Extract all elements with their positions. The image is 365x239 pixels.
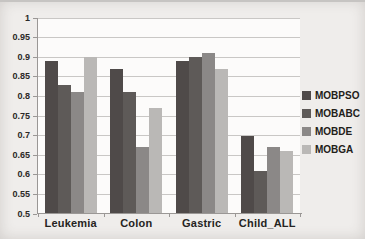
legend-label: MOBGA bbox=[315, 144, 353, 155]
gridline bbox=[38, 76, 300, 77]
x-axis-tick bbox=[235, 214, 236, 217]
y-axis-tick bbox=[33, 76, 37, 77]
y-axis-tick-label: 0.5 bbox=[0, 210, 30, 219]
x-axis-tick bbox=[104, 214, 105, 217]
y-axis-tick-label: 0.55 bbox=[0, 190, 30, 199]
plot-area bbox=[38, 18, 300, 214]
bar-mobpso-colon bbox=[110, 69, 123, 214]
y-axis-tick bbox=[33, 18, 37, 19]
y-axis-tick-label: 0.85 bbox=[0, 72, 30, 81]
x-axis-tick bbox=[300, 214, 301, 217]
y-axis bbox=[37, 18, 38, 214]
bar-mobpso-child_all bbox=[241, 136, 254, 214]
bar-mobpso-leukemia bbox=[45, 61, 58, 214]
x-axis-category-label: Leukemia bbox=[38, 217, 104, 229]
y-axis-tick bbox=[33, 37, 37, 38]
x-axis-category-label: Gastric bbox=[169, 217, 235, 229]
y-axis-tick-label: 0.65 bbox=[0, 151, 30, 160]
y-axis-tick bbox=[33, 135, 37, 136]
bar-mobga-leukemia bbox=[84, 57, 97, 214]
y-axis-tick bbox=[33, 194, 37, 195]
legend-item-mobde: MOBDE bbox=[302, 126, 360, 137]
y-axis-tick bbox=[33, 116, 37, 117]
legend-item-mobga: MOBGA bbox=[302, 144, 360, 155]
top-edge-divider bbox=[0, 0, 365, 2]
y-axis-tick-label: 0.7 bbox=[0, 131, 30, 140]
y-axis-tick bbox=[33, 57, 37, 58]
bar-chart: MOBPSOMOBABCMOBDEMOBGA 10.950.90.850.80.… bbox=[0, 0, 365, 239]
y-axis-tick-label: 1 bbox=[0, 14, 30, 23]
bar-mobpso-gastric bbox=[176, 61, 189, 214]
gridline bbox=[38, 57, 300, 58]
y-axis-tick-label: 0.8 bbox=[0, 92, 30, 101]
x-axis-tick bbox=[169, 214, 170, 217]
bar-mobabc-colon bbox=[123, 92, 136, 214]
bar-mobde-gastric bbox=[202, 53, 215, 214]
y-axis-tick bbox=[33, 96, 37, 97]
legend-swatch-icon bbox=[302, 127, 311, 136]
bar-mobabc-gastric bbox=[189, 57, 202, 214]
bar-mobabc-child_all bbox=[254, 171, 267, 214]
x-axis bbox=[38, 213, 302, 214]
bar-mobga-colon bbox=[149, 108, 162, 214]
y-axis-tick-label: 0.9 bbox=[0, 53, 30, 62]
gridline bbox=[38, 37, 300, 38]
bar-mobde-colon bbox=[136, 147, 149, 214]
x-axis-category-label: Colon bbox=[104, 217, 170, 229]
bar-mobde-leukemia bbox=[71, 92, 84, 214]
bar-mobga-gastric bbox=[215, 69, 228, 214]
legend-item-mobabc: MOBABC bbox=[302, 108, 360, 119]
y-axis-tick-label: 0.75 bbox=[0, 112, 30, 121]
legend-item-mobpso: MOBPSO bbox=[302, 90, 360, 101]
x-axis-tick bbox=[38, 214, 39, 217]
y-axis-tick bbox=[33, 155, 37, 156]
legend-label: MOBPSO bbox=[315, 90, 359, 101]
y-axis-tick-label: 0.95 bbox=[0, 33, 30, 42]
legend: MOBPSOMOBABCMOBDEMOBGA bbox=[302, 90, 360, 162]
bar-mobabc-leukemia bbox=[58, 85, 71, 214]
y-axis-tick bbox=[33, 174, 37, 175]
y-axis-tick bbox=[33, 214, 37, 215]
legend-label: MOBABC bbox=[315, 108, 360, 119]
legend-swatch-icon bbox=[302, 91, 311, 100]
bar-mobde-child_all bbox=[267, 147, 280, 214]
bar-mobga-child_all bbox=[280, 151, 293, 214]
legend-swatch-icon bbox=[302, 145, 311, 154]
y-axis-tick-label: 0.6 bbox=[0, 170, 30, 179]
legend-swatch-icon bbox=[302, 109, 311, 118]
legend-label: MOBDE bbox=[315, 126, 352, 137]
gridline bbox=[38, 18, 300, 19]
x-axis-category-label: Child_ALL bbox=[235, 217, 301, 229]
